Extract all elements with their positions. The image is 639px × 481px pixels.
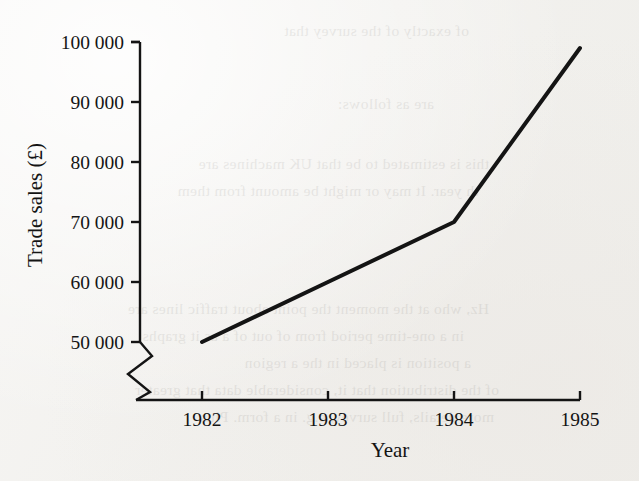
x-axis-title: Year	[371, 438, 410, 462]
y-tick-label-80000: 80 000	[70, 152, 124, 173]
y-tick-label-60000: 60 000	[70, 272, 124, 293]
x-tick-label-1985: 1985	[561, 409, 600, 430]
figure-page: of exactly of the survey that are as fol…	[0, 0, 639, 481]
y-tick-label-90000: 90 000	[70, 92, 124, 113]
x-tick-label-1984: 1984	[435, 409, 474, 430]
y-tick-label-100000: 100 000	[61, 32, 124, 53]
x-tick-label-1982: 1982	[183, 409, 222, 430]
x-tick-label-1983: 1983	[309, 409, 348, 430]
y-axis-break-zigzag	[128, 342, 152, 400]
y-axis-ticks	[131, 42, 140, 342]
x-axis: 1982 1983 1984 1985 Year	[136, 391, 600, 462]
line-chart: 100 000 90 000 80 000 70 000 60 000 50 0…	[0, 0, 639, 481]
y-tick-label-70000: 70 000	[70, 212, 124, 233]
y-axis: 100 000 90 000 80 000 70 000 60 000 50 0…	[23, 32, 152, 400]
x-axis-ticks	[202, 391, 580, 400]
y-axis-title: Trade sales (£)	[23, 143, 47, 267]
trade-sales-line	[202, 48, 580, 342]
y-tick-label-50000: 50 000	[70, 332, 124, 353]
